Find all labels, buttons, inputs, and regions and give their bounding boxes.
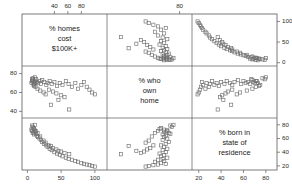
data-point xyxy=(158,43,161,46)
data-point xyxy=(244,55,247,58)
data-point xyxy=(159,50,162,53)
data-point xyxy=(222,98,225,101)
data-point xyxy=(242,54,245,57)
diagonal-label-bornstate: % born instate ofresidence xyxy=(192,128,277,157)
tick-label-top: 80 xyxy=(176,3,183,9)
data-point xyxy=(147,139,150,142)
tick-label-bottom: 20 xyxy=(195,175,202,181)
data-point xyxy=(204,87,207,90)
data-point xyxy=(153,160,156,163)
tick-label-bottom: 50 xyxy=(58,175,65,181)
data-point xyxy=(127,144,130,147)
data-point xyxy=(152,164,155,167)
data-point xyxy=(147,164,150,167)
data-point xyxy=(74,81,77,84)
data-point xyxy=(47,88,50,91)
tick-label-right: 80 xyxy=(282,122,289,128)
diagonal-label-line: % homes xyxy=(22,24,107,34)
tick-label-right: 100 xyxy=(282,18,292,24)
data-point xyxy=(219,80,222,83)
scatterplot-matrix-figure: % homescost$100K+% whoownhome% born inst… xyxy=(0,0,292,190)
data-point xyxy=(63,96,66,99)
data-point xyxy=(119,153,122,156)
data-point xyxy=(156,25,159,28)
data-point xyxy=(236,52,239,55)
data-point xyxy=(76,87,79,90)
data-point xyxy=(63,151,66,154)
data-point xyxy=(164,26,167,29)
data-point xyxy=(166,147,169,150)
data-point xyxy=(147,21,150,24)
data-point xyxy=(159,40,162,43)
tick-label-bottom: 0 xyxy=(26,175,29,181)
tick-label-right: 0 xyxy=(282,59,285,65)
data-point xyxy=(235,50,238,53)
tick-label-left: 60 xyxy=(10,89,17,95)
data-point xyxy=(149,45,152,48)
data-point xyxy=(163,32,166,35)
data-point xyxy=(135,42,138,45)
data-point xyxy=(144,165,147,168)
data-point xyxy=(150,53,153,56)
data-point xyxy=(68,153,71,156)
scatter-panel-bornstate-vs-homes100k xyxy=(196,20,267,62)
data-point xyxy=(55,92,58,95)
tick-label-left: 40 xyxy=(10,108,17,114)
data-point xyxy=(60,94,63,97)
data-point xyxy=(127,47,130,50)
data-point xyxy=(144,141,147,144)
data-point xyxy=(57,98,60,101)
diagonal-label-homes100k: % homescost$100K+ xyxy=(22,24,107,53)
data-point xyxy=(147,51,150,54)
scatter-panel-ownhome-vs-bornstate xyxy=(119,123,175,168)
diagonal-label-ownhome: % whoownhome xyxy=(107,76,192,105)
data-point xyxy=(245,89,248,92)
data-point xyxy=(152,144,155,147)
data-point xyxy=(245,53,248,56)
data-point xyxy=(207,34,210,37)
data-point xyxy=(167,140,170,143)
tick-label-top: 40 xyxy=(51,3,58,9)
scatter-panel-ownhome-vs-homes100k xyxy=(119,20,175,62)
tick-label-top: 60 xyxy=(64,3,71,9)
data-point xyxy=(166,38,169,41)
data-point xyxy=(152,23,155,26)
tick-label-bottom: 100 xyxy=(90,175,100,181)
data-point xyxy=(156,34,159,37)
data-point xyxy=(149,147,152,150)
data-point xyxy=(146,148,149,151)
data-point xyxy=(236,79,239,82)
diagonal-label-line: state of xyxy=(192,138,277,148)
data-point xyxy=(153,30,156,33)
data-point xyxy=(144,50,147,53)
data-point xyxy=(144,20,147,23)
tick-label-right: 60 xyxy=(282,135,289,141)
data-point xyxy=(146,43,149,46)
data-point xyxy=(235,93,238,96)
data-point xyxy=(70,85,73,88)
data-point xyxy=(161,36,164,39)
diagonal-label-line: % born in xyxy=(192,128,277,138)
data-point xyxy=(251,87,254,90)
data-point xyxy=(68,108,71,111)
data-point xyxy=(153,131,156,134)
tick-label-left: 80 xyxy=(10,70,17,76)
diagonal-label-line: home xyxy=(107,96,192,106)
data-point xyxy=(152,48,155,51)
data-point xyxy=(161,149,164,152)
data-point xyxy=(119,36,122,39)
tick-label-right: 40 xyxy=(282,149,289,155)
diagonal-label-line: $100K+ xyxy=(22,44,107,54)
data-point xyxy=(261,77,264,80)
data-point xyxy=(226,45,229,48)
tick-label-right: 50 xyxy=(282,39,289,45)
data-point xyxy=(166,156,169,159)
tick-label-right: 20 xyxy=(282,163,289,169)
data-point xyxy=(216,108,219,111)
tick-label-bottom: 40 xyxy=(218,175,225,181)
diagonal-label-line: residence xyxy=(192,148,277,158)
diagonal-label-line: own xyxy=(107,86,192,96)
scatter-panel-homes100k-vs-ownhome xyxy=(30,76,97,111)
data-point xyxy=(156,163,159,166)
data-point xyxy=(231,88,234,91)
